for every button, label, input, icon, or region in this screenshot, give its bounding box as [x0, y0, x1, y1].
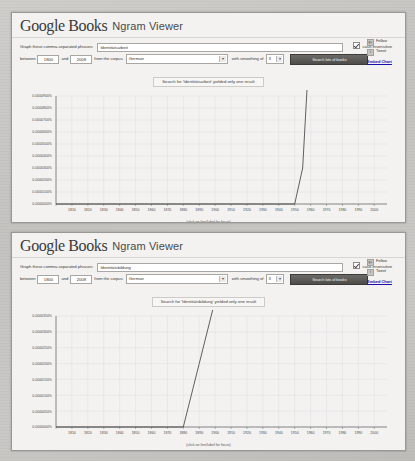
- google-books-logo-2: Google Books: [20, 237, 107, 255]
- twitter-label-1: Tweet: [376, 49, 386, 53]
- phrase-label-2: Graph these comma-separated phrases:: [20, 261, 93, 273]
- x-axis-tick: 1990: [354, 208, 362, 212]
- search-notice-text-1: Search for 'Identitätsarbeit' yielded on…: [153, 77, 263, 87]
- twitter-icon-1: t: [367, 49, 374, 56]
- x-axis-tick: 1940: [275, 431, 283, 435]
- search-button-1[interactable]: Search lots of books: [290, 54, 368, 65]
- x-axis-tick: 1930: [259, 431, 267, 435]
- x-axis-tick: 1840: [116, 208, 124, 212]
- x-axis-tick: 1920: [243, 431, 251, 435]
- x-axis-tick: 1950: [291, 208, 299, 212]
- google-wordmark-2: Google: [20, 237, 65, 254]
- product-name-1: Ngram Viewer: [112, 20, 183, 32]
- chevron-down-icon-smoothing-2[interactable]: ▾: [276, 276, 282, 282]
- case-insensitive-checkbox-2[interactable]: [353, 262, 360, 269]
- smoothing-select-2[interactable]: 3▾: [266, 274, 284, 284]
- chevron-down-icon-corpus-1[interactable]: ▾: [219, 56, 226, 62]
- x-axis-tick: 1870: [163, 431, 171, 435]
- between-label-2: between: [20, 273, 35, 285]
- twitter-tweet-1[interactable]: tTweet: [367, 49, 401, 56]
- phrase-row-1: Graph these comma-separated phrases:Iden…: [12, 41, 405, 53]
- phrase-input-2[interactable]: Identitätsbildung: [97, 263, 343, 272]
- x-axis-tick: 1910: [227, 208, 235, 212]
- embed-chart-link-1[interactable]: Embed Chart: [367, 59, 401, 64]
- y-axis-tick: 0.0000900%: [32, 94, 52, 98]
- x-axis-tick: 1870: [163, 208, 171, 212]
- search-button-2[interactable]: Search lots of books: [290, 274, 368, 285]
- google-plus-icon-2: g+: [367, 259, 374, 266]
- x-caption-2: (click on line/label for focus): [12, 443, 405, 447]
- year-start-input-1[interactable]: 1800: [37, 55, 59, 64]
- x-axis-tick: 1920: [243, 208, 251, 212]
- y-axis-tick: 0.0000350%: [32, 314, 52, 318]
- smoothing-select-1[interactable]: 3▾: [266, 54, 284, 64]
- x-caption-1: (click on line/label for focus): [12, 220, 405, 223]
- x-axis-tick: 1940: [275, 208, 283, 212]
- y-axis-tick: 0.0000200%: [32, 362, 52, 366]
- x-axis-tick: 1980: [339, 431, 347, 435]
- google-plus-follow-2[interactable]: g+Follow: [367, 259, 401, 266]
- books-wordmark-2: Books: [68, 237, 107, 254]
- x-axis-tick: 1900: [211, 208, 219, 212]
- x-axis-tick: 1890: [195, 431, 203, 435]
- x-axis-tick: 1960: [307, 208, 315, 212]
- options-row-1: between1800and2008from the corpusGerman▾…: [12, 53, 405, 65]
- corpus-select-2[interactable]: German▾: [126, 274, 228, 284]
- year-start-input-2[interactable]: 1800: [37, 275, 59, 284]
- embed-chart-link-2[interactable]: Embed Chart: [367, 279, 401, 284]
- x-axis-tick: 1850: [132, 431, 140, 435]
- google-plus-follow-1[interactable]: g+Follow: [367, 39, 401, 46]
- corpus-label-2: from the corpus: [94, 273, 122, 285]
- y-axis-tick: 0.0000700%: [32, 118, 52, 122]
- y-axis-tick: 0.0000050%: [32, 410, 52, 414]
- x-axis-tick: 1990: [354, 431, 362, 435]
- x-axis-tick: 1970: [323, 208, 331, 212]
- chart-container-1[interactable]: 0.0000900%0.0000800%0.0000700%0.0000600%…: [12, 90, 405, 223]
- x-axis-tick: 1970: [323, 431, 331, 435]
- x-axis-tick: 2000: [370, 208, 378, 212]
- y-axis-tick: 0.0000000%: [32, 425, 52, 429]
- search-notice-2: Search for 'Identitätsbildung' yielded o…: [12, 289, 405, 307]
- y-axis-tick: 0.0000250%: [32, 346, 52, 350]
- ngram-panel-1: Google BooksNgram Viewer Graph these com…: [11, 12, 406, 223]
- year-end-input-1[interactable]: 2008: [70, 55, 92, 64]
- series-line[interactable]: [56, 90, 387, 204]
- app-header-2: Google BooksNgram Viewer: [12, 233, 405, 258]
- x-axis-tick: 1960: [307, 431, 315, 435]
- ngram-chart-1[interactable]: 0.0000900%0.0000800%0.0000700%0.0000600%…: [12, 90, 405, 220]
- y-axis-tick: 0.0000400%: [32, 154, 52, 158]
- y-axis-tick: 0.0000300%: [32, 330, 52, 334]
- y-axis-tick: 0.0000000%: [32, 202, 52, 206]
- smoothing-label-1: with smoothing of: [232, 53, 264, 65]
- smoothing-value-2: 3: [268, 276, 270, 281]
- x-axis-tick: 1880: [179, 431, 187, 435]
- x-axis-tick: 1930: [259, 208, 267, 212]
- y-axis-tick: 0.0000200%: [32, 178, 52, 182]
- x-axis-tick: 1980: [339, 208, 347, 212]
- google-plus-label-2: Follow: [376, 259, 387, 263]
- x-axis-tick: 1820: [84, 431, 92, 435]
- y-axis-tick: 0.0000600%: [32, 130, 52, 134]
- x-axis-tick: 1950: [291, 431, 299, 435]
- x-axis-tick: 1860: [148, 208, 156, 212]
- share-sidebar-1: g+Follow tTweet Embed Chart: [367, 39, 401, 64]
- phrase-input-1[interactable]: Identitätsarbeit: [97, 43, 343, 52]
- chart-container-2[interactable]: 0.0000350%0.0000300%0.0000250%0.0000200%…: [12, 310, 405, 447]
- x-axis-tick: 2000: [370, 431, 378, 435]
- x-axis-tick: 1850: [132, 208, 140, 212]
- chevron-down-icon-smoothing-1[interactable]: ▾: [276, 56, 282, 62]
- case-insensitive-checkbox-1[interactable]: [353, 42, 360, 49]
- google-plus-icon-1: g+: [367, 39, 374, 46]
- series-line[interactable]: [56, 310, 387, 427]
- twitter-tweet-2[interactable]: tTweet: [367, 269, 401, 276]
- year-end-input-2[interactable]: 2008: [70, 275, 92, 284]
- chevron-down-icon-corpus-2[interactable]: ▾: [219, 276, 226, 282]
- x-axis-tick: 1880: [179, 208, 187, 212]
- ngram-chart-2[interactable]: 0.0000350%0.0000300%0.0000250%0.0000200%…: [12, 310, 405, 443]
- corpus-select-1[interactable]: German▾: [126, 54, 228, 64]
- y-axis-tick: 0.0000150%: [32, 378, 52, 382]
- google-books-logo-1: Google Books: [20, 17, 107, 35]
- books-wordmark-1: Books: [68, 17, 107, 34]
- google-wordmark-1: Google: [20, 17, 65, 34]
- x-axis-tick: 1860: [148, 431, 156, 435]
